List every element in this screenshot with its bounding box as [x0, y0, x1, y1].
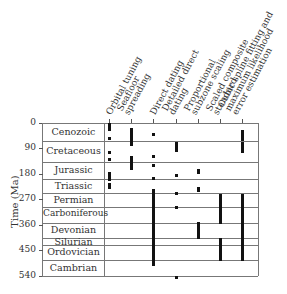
period-label-jurassic: Jurassic — [43, 164, 104, 175]
range-bar-detailed-direct-dating — [175, 276, 178, 279]
y-tick-label: 360 — [10, 219, 36, 229]
period-label-triassic: Triassic — [43, 180, 104, 191]
column-tick — [176, 119, 177, 123]
period-boundary — [42, 141, 258, 142]
range-bar-cubic-spline — [241, 130, 244, 141]
range-bar-proportional-subzone-scaling — [197, 169, 200, 174]
range-bar-seafloor-spreading — [130, 156, 133, 170]
period-label-cretaceous: Cretaceous — [43, 145, 104, 156]
range-bar-direct-dating — [152, 177, 155, 180]
range-bar-detailed-direct-dating — [175, 174, 178, 177]
plot-top-border — [42, 123, 258, 124]
range-bar-orbital-tuning — [108, 151, 111, 154]
column-tick — [198, 119, 199, 123]
range-bar-proportional-subzone-scaling — [197, 222, 200, 239]
range-bar-orbital-tuning — [108, 137, 111, 140]
range-bar-detailed-direct-dating — [175, 206, 178, 209]
range-bar-scaled-composite-standard — [219, 194, 222, 224]
y-tick-label: 450 — [10, 244, 36, 254]
range-bar-direct-dating — [152, 164, 155, 167]
range-bar-detailed-direct-dating — [175, 142, 178, 152]
y-tick-label: 0 — [10, 117, 36, 127]
period-label-permian: Permian — [43, 194, 104, 205]
period-boundary — [42, 260, 258, 261]
column-tick — [153, 119, 154, 123]
period-label-carboniferous: Carboniferous — [43, 208, 104, 218]
range-bar-scaled-composite-standard — [219, 238, 222, 261]
period-column-divider — [104, 123, 105, 276]
column-tick — [131, 119, 132, 123]
range-bar-orbital-tuning — [108, 172, 111, 181]
range-bar-cubic-spline — [241, 142, 244, 153]
range-bar-proportional-subzone-scaling — [197, 187, 200, 192]
range-bar-direct-dating — [152, 155, 155, 158]
period-boundary — [42, 162, 258, 163]
column-tick — [220, 119, 221, 123]
range-bar-direct-dating — [152, 189, 155, 266]
plot-right-border — [258, 123, 259, 276]
period-label-devonian: Devonian — [43, 224, 104, 235]
range-bar-cubic-spline — [241, 194, 244, 261]
y-tick-label: 180 — [10, 168, 36, 178]
plot-bottom-border — [42, 276, 258, 277]
y-tick-label: 540 — [10, 270, 36, 280]
range-bar-orbital-tuning — [108, 158, 111, 161]
range-bar-seafloor-spreading — [130, 128, 133, 146]
range-bar-detailed-direct-dating — [175, 192, 178, 195]
period-label-cambrian: Cambrian — [43, 262, 104, 273]
y-tick-label: 90 — [10, 142, 36, 152]
period-label-ordovician: Ordovician — [43, 246, 104, 257]
y-tick-label: 270 — [10, 193, 36, 203]
range-bar-orbital-tuning — [108, 123, 111, 131]
range-bar-direct-dating — [152, 133, 155, 136]
column-tick — [242, 119, 243, 123]
period-label-cenozoic: Cenozoic — [43, 126, 104, 137]
range-bar-orbital-tuning — [108, 183, 111, 189]
